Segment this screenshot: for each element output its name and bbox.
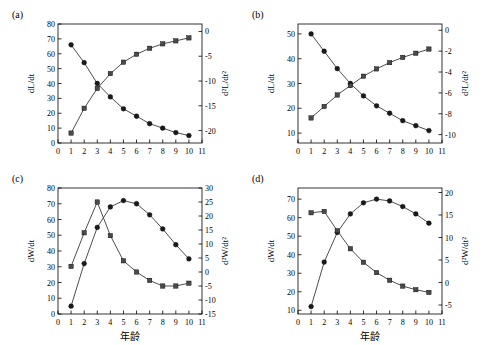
y-right-tick-label: 0 xyxy=(205,27,209,36)
y-left-tick-label: 80 xyxy=(47,184,55,193)
x-tick-label: 4 xyxy=(348,318,352,327)
data-point-square xyxy=(401,284,405,288)
y-right-axis-title: d²L/dt² xyxy=(220,71,230,96)
y-right-tick-label: -10 xyxy=(205,77,216,86)
x-tick-label: 8 xyxy=(401,147,405,156)
x-tick-label: 0 xyxy=(296,147,300,156)
y-right-tick-label: 5 xyxy=(445,256,449,265)
data-point-circle xyxy=(82,60,87,65)
data-point-square xyxy=(414,288,418,292)
data-point-square xyxy=(322,104,326,108)
series-line-2 xyxy=(311,49,429,118)
data-point-circle xyxy=(147,121,152,126)
y-right-tick-label: -8 xyxy=(445,110,452,119)
x-tick-label: 2 xyxy=(82,318,86,327)
y-right-tick-label: -15 xyxy=(205,310,216,319)
y-right-tick-label: -5 xyxy=(205,52,212,61)
x-tick-label: 7 xyxy=(148,318,152,327)
y-right-tick-label: 30 xyxy=(205,184,213,193)
y-left-tick-label: 20 xyxy=(47,279,55,288)
y-right-tick-label: -20 xyxy=(205,127,216,136)
x-tick-label: 7 xyxy=(388,147,392,156)
x-tick-label: 11 xyxy=(198,147,206,156)
series-line-1 xyxy=(311,199,429,306)
data-point-square xyxy=(414,51,418,55)
data-point-square xyxy=(82,106,86,110)
panel-label: (b) xyxy=(252,9,264,21)
y-left-tick-label: 30 xyxy=(287,80,295,89)
y-left-tick-label: 10 xyxy=(47,294,55,303)
data-point-circle xyxy=(160,126,165,131)
y-left-tick-label: 40 xyxy=(287,251,295,260)
y-left-tick-label: 70 xyxy=(47,200,55,209)
y-right-tick-label: 0 xyxy=(445,26,449,35)
x-tick-label: 9 xyxy=(414,147,418,156)
y-right-tick-label: 20 xyxy=(445,189,453,198)
data-point-circle xyxy=(413,123,418,128)
data-point-circle xyxy=(427,128,432,133)
x-tick-label: 2 xyxy=(82,147,86,156)
y-left-tick-label: 40 xyxy=(47,80,55,89)
data-point-circle xyxy=(309,304,314,309)
x-tick-label: 9 xyxy=(414,318,418,327)
data-point-circle xyxy=(427,221,432,226)
data-point-square xyxy=(427,47,431,51)
data-point-square xyxy=(174,284,178,288)
y-left-tick-label: 10 xyxy=(47,124,55,133)
data-point-circle xyxy=(95,225,100,230)
y-left-tick-label: 70 xyxy=(287,195,295,204)
data-point-circle xyxy=(82,261,87,266)
data-point-square xyxy=(374,67,378,71)
panel-label: (d) xyxy=(252,173,264,185)
data-point-circle xyxy=(160,227,165,232)
x-tick-label: 1 xyxy=(69,147,73,156)
x-tick-label: 8 xyxy=(401,318,405,327)
x-tick-label: 10 xyxy=(185,318,193,327)
x-tick-label: 5 xyxy=(361,147,365,156)
y-right-axis-title: d²L/dt² xyxy=(460,71,470,96)
y-right-tick-label: -5 xyxy=(205,282,212,291)
plot-frame xyxy=(58,24,202,143)
panel-label: (a) xyxy=(12,9,23,21)
plot-frame xyxy=(298,188,442,314)
data-point-circle xyxy=(134,201,139,206)
x-tick-label: 2 xyxy=(322,147,326,156)
panel-c: 0123456789101101020304050607080-15-10-50… xyxy=(10,172,248,344)
data-point-circle xyxy=(322,260,327,265)
y-left-axis-title: dW/dt xyxy=(26,239,36,262)
data-point-square xyxy=(147,46,151,50)
data-point-square xyxy=(121,259,125,263)
series-line-1 xyxy=(71,201,189,307)
data-point-circle xyxy=(387,111,392,116)
data-point-square xyxy=(361,74,365,78)
y-right-tick-label: 15 xyxy=(205,226,213,235)
y-left-tick-label: 60 xyxy=(47,216,55,225)
data-point-square xyxy=(134,52,138,56)
y-left-tick-label: 20 xyxy=(287,104,295,113)
data-point-square xyxy=(161,42,165,46)
series-line-2 xyxy=(71,38,189,133)
data-point-square xyxy=(427,290,431,294)
x-tick-label: 10 xyxy=(425,147,433,156)
y-right-tick-label: 5 xyxy=(205,254,209,263)
x-tick-label: 5 xyxy=(121,318,125,327)
y-left-axis-title: dL/dt xyxy=(266,73,276,93)
x-axis-title: 年龄 xyxy=(360,330,380,342)
data-point-circle xyxy=(69,42,74,47)
data-point-square xyxy=(95,200,99,204)
data-point-square xyxy=(95,86,99,90)
data-point-square xyxy=(161,284,165,288)
data-point-square xyxy=(82,231,86,235)
panel-d: 0123456789101110203040506070-505101520dW… xyxy=(250,172,488,344)
y-right-tick-label: 10 xyxy=(205,240,213,249)
y-right-tick-label: -2 xyxy=(445,47,452,56)
data-point-square xyxy=(309,211,313,215)
y-right-tick-label: -5 xyxy=(445,301,452,310)
data-point-circle xyxy=(187,256,192,261)
x-tick-label: 1 xyxy=(69,318,73,327)
x-tick-label: 9 xyxy=(174,147,178,156)
y-left-tick-label: 0 xyxy=(51,139,55,148)
x-tick-label: 6 xyxy=(135,318,139,327)
data-point-circle xyxy=(108,205,113,210)
data-point-square xyxy=(108,233,112,237)
